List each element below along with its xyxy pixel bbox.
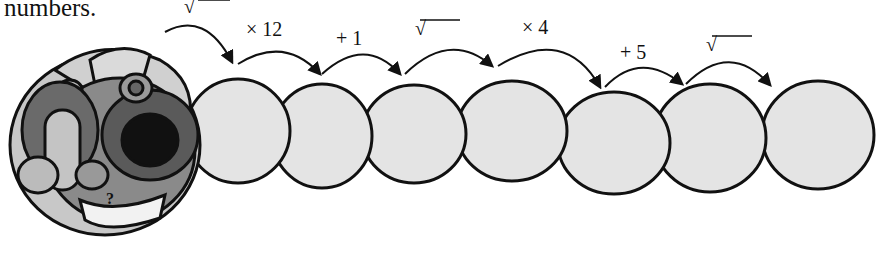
operation-label-times-4: × 4 (522, 17, 548, 37)
operation-label-plus-1: + 1 (336, 28, 362, 48)
arrow-1 (165, 25, 232, 62)
arrow-3 (322, 55, 400, 75)
operation-label-sqrt-1: √ (184, 0, 195, 16)
arrow-7 (686, 62, 770, 85)
arrow-2 (238, 52, 320, 74)
operation-label-times-12: × 12 (246, 19, 282, 39)
arrow-6 (605, 68, 682, 87)
operation-label-sqrt-3: √ (706, 34, 717, 54)
operation-label-sqrt-2: √ (415, 18, 426, 38)
arrow-5 (498, 50, 600, 87)
arrow-4 (405, 50, 492, 74)
operation-label-plus-5: + 5 (620, 42, 646, 62)
operation-arrows (0, 0, 876, 253)
